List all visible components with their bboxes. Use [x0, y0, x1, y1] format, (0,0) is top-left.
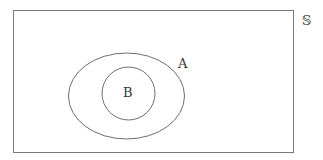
universal-set-rectangle: [14, 11, 294, 153]
set-b-label: B: [123, 85, 133, 100]
set-a-label: A: [177, 56, 188, 71]
venn-diagram: 𝕊 A B: [0, 0, 323, 160]
universal-set-label: 𝕊: [302, 13, 311, 28]
